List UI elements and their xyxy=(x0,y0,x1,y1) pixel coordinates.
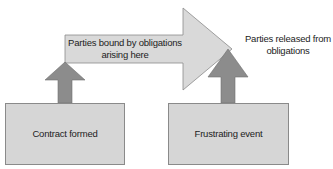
released-note-line1: Parties released from xyxy=(244,33,332,45)
big-arrow-label: Parties bound by obligations arising her… xyxy=(66,37,184,61)
released-note-line2: obligations xyxy=(244,45,332,57)
big-arrow-label-line2: arising here xyxy=(66,49,184,61)
released-note: Parties released from obligations xyxy=(244,33,332,57)
diagram-canvas xyxy=(0,0,333,169)
big-arrow-label-line1: Parties bound by obligations xyxy=(66,37,184,49)
contract-formed-label: Contract formed xyxy=(5,128,125,140)
contract-formed-up-arrow xyxy=(45,62,85,103)
frustrating-event-label: Frustrating event xyxy=(168,128,289,140)
